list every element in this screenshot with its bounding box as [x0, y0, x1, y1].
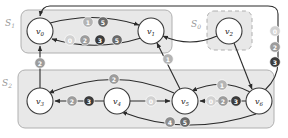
- node-v6: v6: [246, 88, 272, 114]
- edge-label-value: 0: [149, 98, 154, 105]
- diagram-canvas: S1S0S2 v0v1v2v3v4v5v6 150235223021023145…: [0, 0, 288, 138]
- node-v3: v3: [27, 88, 53, 114]
- node-v4: v4: [104, 88, 130, 114]
- edge-label-lab-v6v5-2: 2: [218, 96, 229, 107]
- edge-label-lab-v6v5-1: 1: [217, 80, 228, 91]
- edge-label-value: 0: [68, 37, 73, 44]
- edge-label-value: 1: [220, 82, 224, 89]
- edge-label-lab-v5v3-2: 2: [109, 74, 120, 85]
- edge-label-lab-v0v1-1: 1: [83, 17, 94, 28]
- edge-label-value: 2: [273, 44, 277, 51]
- edge-label-value: 2: [83, 37, 87, 44]
- edge-label-lab-v6v0-2: 2: [270, 42, 281, 53]
- edge-label-value: 3: [98, 37, 102, 44]
- edge-label-lab-v6v4-4: 4: [165, 117, 176, 128]
- edge-label-lab-v1v0-0: 0: [65, 35, 76, 46]
- edge-label-lab-v3v0-2: 2: [35, 58, 46, 69]
- edge-label-value: 5: [115, 37, 119, 44]
- edge-label-value: 2: [38, 60, 42, 67]
- node-v1: v1: [138, 18, 164, 44]
- edge-label-value: 5: [101, 19, 105, 26]
- region-label-S0: S0: [191, 19, 201, 30]
- edge-label-lab-v1v0-2: 2: [80, 35, 91, 46]
- edge-label-lab-v4v3-3: 3: [84, 96, 95, 107]
- edge-label-value: 1: [166, 56, 170, 63]
- edge-label-lab-v6v0-0: 0: [270, 26, 281, 37]
- edge-label-value: 3: [87, 98, 91, 105]
- edge-label-lab-v6v5-0: 0: [206, 96, 217, 107]
- edge-label-value: 2: [112, 76, 116, 83]
- edge-label-value: 0: [273, 28, 278, 35]
- node-v2: v2: [216, 18, 242, 44]
- edge-label-lab-v6v4-5: 5: [180, 117, 191, 128]
- edge-label-lab-v4v3-2: 2: [67, 96, 78, 107]
- edge-label-value: 0: [209, 98, 214, 105]
- edge-label-lab-v4v5-0: 0: [146, 96, 157, 107]
- edge-label-value: 3: [273, 59, 277, 66]
- edge-label-value: 5: [183, 119, 187, 126]
- graph-svg: S1S0S2 v0v1v2v3v4v5v6 150235223021023145…: [0, 0, 288, 138]
- edge-label-value: 2: [221, 98, 225, 105]
- edge-label-lab-v6v5-3: 3: [231, 96, 242, 107]
- region-label-S1: S1: [5, 18, 15, 29]
- region-label-S2: S2: [2, 78, 12, 89]
- edge-label-lab-v5v1-1: 1: [163, 54, 174, 65]
- edge-label-value: 4: [168, 119, 173, 126]
- edge-label-value: 3: [234, 98, 238, 105]
- edge-label-lab-v6v0-3: 3: [270, 57, 281, 68]
- edge-label-lab-v1v0-3: 3: [95, 35, 106, 46]
- edge-label-value: 2: [70, 98, 74, 105]
- edge-label-lab-v1v0-5: 5: [112, 35, 123, 46]
- edge-label-lab-v0v1-5: 5: [98, 17, 109, 28]
- node-v0: v0: [27, 18, 53, 44]
- edge-label-value: 1: [86, 19, 90, 26]
- node-v5: v5: [172, 88, 198, 114]
